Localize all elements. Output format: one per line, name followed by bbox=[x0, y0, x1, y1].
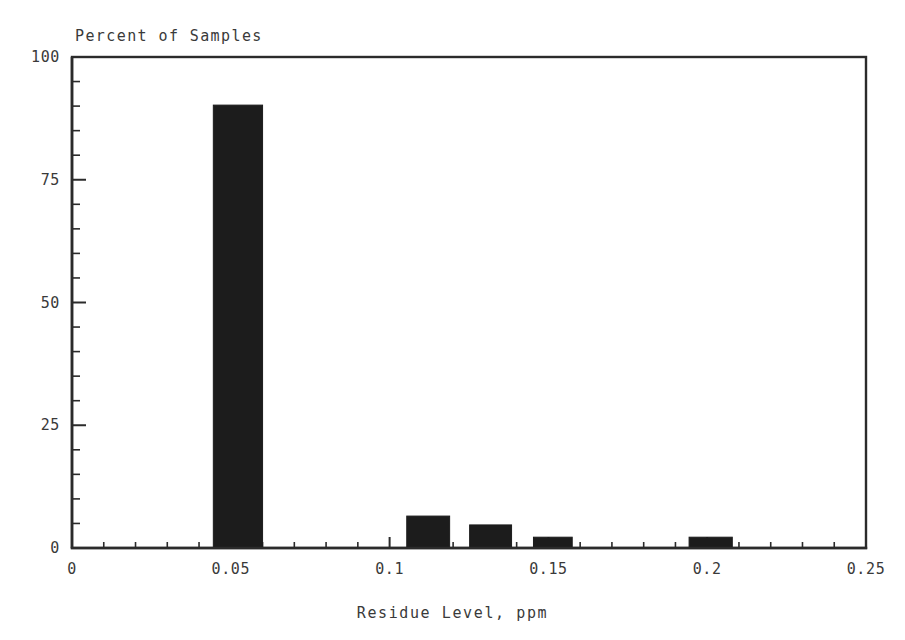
plot-area bbox=[0, 0, 905, 640]
y-tick-label: 100 bbox=[0, 48, 60, 66]
x-tick-label: 0.15 bbox=[503, 560, 593, 578]
x-axis-title: Residue Level, ppm bbox=[0, 604, 905, 622]
y-tick-label: 75 bbox=[0, 171, 60, 189]
y-tick-label: 25 bbox=[0, 416, 60, 434]
histogram-bar bbox=[213, 105, 262, 548]
histogram-bar bbox=[407, 516, 450, 548]
x-tick-label: 0 bbox=[27, 560, 117, 578]
x-tick-label: 0.25 bbox=[821, 560, 905, 578]
y-tick-label: 0 bbox=[0, 539, 60, 557]
x-tick-label: 0.1 bbox=[345, 560, 435, 578]
plot-frame bbox=[72, 57, 866, 548]
y-tick-label: 50 bbox=[0, 294, 60, 312]
bar-series bbox=[213, 105, 732, 548]
histogram-bar bbox=[689, 537, 732, 548]
x-tick-label: 0.05 bbox=[186, 560, 276, 578]
x-tick-label: 0.2 bbox=[662, 560, 752, 578]
chart-figure: Percent of Samples 0255075100 00.050.10.… bbox=[0, 0, 905, 640]
histogram-bar bbox=[533, 537, 572, 548]
histogram-bar bbox=[470, 525, 512, 548]
